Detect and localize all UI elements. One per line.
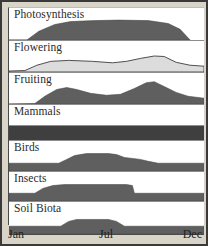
band-photosynthesis: Photosynthesis — [9, 8, 204, 41]
band-label-insects: Insects — [14, 172, 47, 184]
x-axis: Jan Jul Dec — [8, 226, 204, 246]
band-label-birds: Birds — [14, 141, 39, 153]
band-label-flowering: Flowering — [14, 41, 62, 53]
band-label-fruiting: Fruiting — [14, 73, 52, 85]
band-label-soil-biota: Soil Biota — [14, 202, 61, 214]
band-mammals: Mammals — [9, 105, 204, 141]
band-label-photosynthesis: Photosynthesis — [14, 8, 84, 20]
phenology-chart-figure: Photosynthesis Flowering Fruiting Mammal… — [0, 0, 208, 246]
axis-tick-jul: Jul — [99, 227, 113, 242]
band-flowering: Flowering — [9, 41, 204, 73]
band-fruiting: Fruiting — [9, 73, 204, 105]
band-birds: Birds — [9, 141, 204, 172]
axis-tick-dec: Dec — [183, 227, 202, 242]
band-label-mammals: Mammals — [14, 105, 61, 117]
band-insects: Insects — [9, 172, 204, 202]
band-stack: Photosynthesis Flowering Fruiting Mammal… — [8, 7, 204, 225]
axis-tick-jan: Jan — [8, 227, 24, 242]
